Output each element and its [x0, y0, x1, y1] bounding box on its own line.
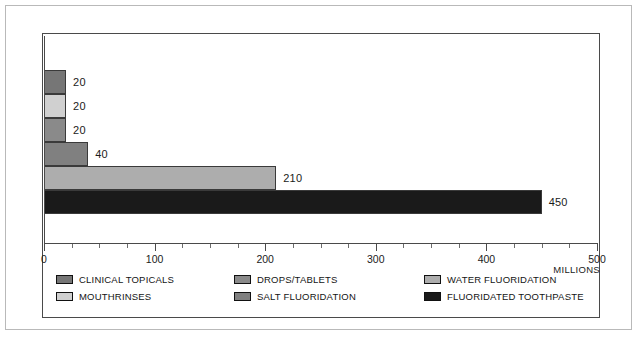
legend-swatch	[424, 292, 441, 301]
x-axis-tick-minor	[459, 244, 460, 248]
x-axis-tick-minor	[99, 244, 100, 248]
bar-value-label: 20	[73, 124, 86, 136]
x-axis-tick-minor	[321, 244, 322, 248]
x-axis-tick-minor	[72, 244, 73, 248]
bar-row: 20	[44, 70, 597, 94]
bar	[44, 94, 66, 118]
x-axis-tick-major	[265, 244, 266, 251]
bar-row: 40	[44, 142, 597, 166]
legend-label: WATER FLUORIDATION	[447, 274, 557, 285]
x-axis-tick-major	[376, 244, 377, 251]
bar-value-label: 450	[549, 196, 568, 208]
legend-label: FLUORIDATED TOOTHPASTE	[447, 291, 584, 302]
legend-swatch	[56, 292, 73, 301]
legend-item: SALT FLUORIDATION	[234, 291, 356, 302]
x-axis-tick-major	[486, 244, 487, 251]
legend-item: DROPS/TABLETS	[234, 274, 338, 285]
legend-swatch	[234, 292, 251, 301]
bar	[44, 190, 542, 214]
bar-row: 210	[44, 166, 597, 190]
x-axis-tick-label: 0	[41, 253, 47, 265]
x-axis-tick-minor	[431, 244, 432, 248]
legend-swatch	[234, 275, 251, 284]
x-axis-tick-label: 100	[146, 253, 164, 265]
bar-value-label: 210	[283, 172, 302, 184]
bar	[44, 142, 88, 166]
y-axis-line	[44, 36, 45, 244]
x-axis-tick-major	[155, 244, 156, 251]
bar-chart-figure: 20202040210450 0100200300400500 MILLIONS…	[0, 0, 639, 337]
x-axis-tick-label: 200	[256, 253, 274, 265]
x-axis-tick-label: 400	[478, 253, 496, 265]
legend-label: SALT FLUORIDATION	[257, 291, 356, 302]
x-axis-tick-minor	[514, 244, 515, 248]
x-axis-tick-major	[597, 244, 598, 251]
legend-item: MOUTHRINSES	[56, 291, 151, 302]
bar-row: 20	[44, 118, 597, 142]
x-axis-tick-minor	[238, 244, 239, 248]
x-axis-tick-minor	[127, 244, 128, 248]
bar-value-label: 40	[95, 148, 108, 160]
legend-item: WATER FLUORIDATION	[424, 274, 557, 285]
legend-label: CLINICAL TOPICALS	[79, 274, 174, 285]
bar	[44, 118, 66, 142]
bar-value-label: 20	[73, 76, 86, 88]
chart-legend: CLINICAL TOPICALSMOUTHRINSESDROPS/TABLET…	[56, 274, 576, 308]
x-axis-tick-minor	[293, 244, 294, 248]
plot-area: 20202040210450	[44, 38, 597, 243]
bar-value-label: 20	[73, 100, 86, 112]
bar-row: 20	[44, 94, 597, 118]
legend-item: CLINICAL TOPICALS	[56, 274, 174, 285]
x-axis-tick-minor	[569, 244, 570, 248]
x-axis-tick-label: 300	[367, 253, 385, 265]
legend-item: FLUORIDATED TOOTHPASTE	[424, 291, 584, 302]
x-axis-tick-minor	[348, 244, 349, 248]
x-axis-tick-minor	[210, 244, 211, 248]
bar	[44, 166, 276, 190]
x-axis-tick-minor	[182, 244, 183, 248]
legend-swatch	[56, 275, 73, 284]
x-axis-tick-major	[44, 244, 45, 251]
x-axis-tick-minor	[403, 244, 404, 248]
legend-label: MOUTHRINSES	[79, 291, 151, 302]
bar	[44, 70, 66, 94]
legend-label: DROPS/TABLETS	[257, 274, 338, 285]
x-axis-tick-minor	[542, 244, 543, 248]
legend-swatch	[424, 275, 441, 284]
bar-row: 450	[44, 190, 597, 214]
